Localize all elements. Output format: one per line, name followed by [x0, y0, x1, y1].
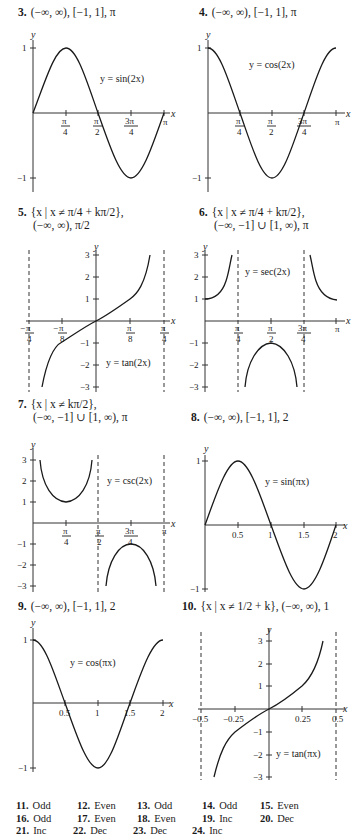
svg-text:1: 1 — [258, 681, 263, 691]
svg-text:1: 1 — [194, 294, 199, 304]
chart-p10: y x 321 −1−2−3 −0.5−0.250.250.5 y = tan(… — [192, 624, 348, 782]
svg-text:π: π — [268, 323, 273, 333]
svg-text:x: x — [345, 108, 351, 119]
svg-text:8: 8 — [128, 334, 133, 344]
svg-text:y: y — [30, 29, 36, 40]
svg-text:x: x — [170, 315, 176, 326]
answer-item: 15.Even — [260, 800, 299, 813]
plots-layer: .ax{stroke:#333;stroke-width:1;fill:none… — [0, 0, 364, 800]
chart-p6: y x 321 −1−2−3 π4 π2 3π4 π y = sec(2x) — [189, 241, 351, 392]
svg-text:π: π — [59, 323, 64, 333]
answer-item: 18.Even — [137, 813, 202, 826]
svg-text:4: 4 — [64, 537, 69, 547]
answers-row: 11.Odd 12.Even 13.Odd 14.Odd 15.Even — [16, 800, 299, 813]
svg-text:4: 4 — [129, 127, 134, 137]
answer-item: 19.Inc — [202, 813, 260, 826]
svg-text:2: 2 — [22, 476, 27, 486]
answers-row: 21.Inc 22.Dec 23.Dec 24.Inc — [16, 825, 299, 838]
svg-text:−3: −3 — [253, 772, 263, 782]
svg-text:y: y — [202, 241, 208, 252]
svg-text:−3: −3 — [80, 382, 90, 392]
svg-text:y = sin(2x): y = sin(2x) — [100, 73, 144, 85]
svg-text:x: x — [168, 698, 174, 709]
svg-text:−0.25: −0.25 — [223, 714, 244, 724]
svg-text:1: 1 — [196, 456, 201, 466]
svg-text:−2: −2 — [80, 360, 90, 370]
answer-item: 14.Odd — [202, 800, 260, 813]
svg-text:4: 4 — [63, 127, 68, 137]
svg-text:1.5: 1.5 — [298, 530, 310, 540]
svg-text:π: π — [335, 117, 340, 127]
svg-text:π: π — [161, 323, 166, 333]
svg-text:y: y — [205, 29, 211, 40]
svg-text:y: y — [30, 439, 36, 450]
svg-text:−2: −2 — [253, 750, 263, 760]
svg-text:y: y — [93, 241, 99, 252]
svg-text:1: 1 — [23, 635, 28, 645]
svg-text:−1: −1 — [17, 539, 27, 549]
answer-item: 23.Dec — [133, 825, 192, 838]
answer-item: 11.Odd — [16, 800, 77, 813]
chart-p5: y x 321 −1−2−3 −π4 −π8 π8 π4 y = tan(2x) — [20, 241, 176, 392]
svg-text:π: π — [235, 323, 240, 333]
svg-text:4: 4 — [237, 127, 242, 137]
svg-text:3: 3 — [194, 250, 199, 260]
svg-text:y = cos(2x): y = cos(2x) — [249, 59, 295, 71]
svg-text:2: 2 — [95, 127, 100, 137]
svg-text:π: π — [26, 323, 31, 333]
svg-text:x: x — [342, 520, 348, 531]
svg-text:4: 4 — [301, 334, 306, 344]
svg-text:π: π — [162, 526, 167, 536]
chart-p8: y x 1−1 0.511.52 y = sin(πx) — [190, 443, 348, 594]
svg-text:3: 3 — [85, 250, 90, 260]
svg-text:π: π — [236, 116, 241, 126]
svg-text:y: y — [203, 443, 209, 454]
svg-text:π: π — [63, 526, 68, 536]
svg-text:−3: −3 — [17, 581, 27, 591]
chart-p4: y x 1−1 π4 π2 3π4 π y = cos(2x) — [192, 29, 351, 192]
svg-text:−1: −1 — [80, 338, 90, 348]
svg-text:y: y — [30, 617, 36, 628]
svg-text:y = cos(πx): y = cos(πx) — [70, 657, 116, 669]
svg-text:y = sec(2x): y = sec(2x) — [245, 266, 290, 278]
svg-text:1: 1 — [22, 497, 27, 507]
svg-text:1: 1 — [95, 708, 100, 718]
svg-text:y = tan(πx): y = tan(πx) — [276, 748, 321, 760]
svg-text:−: − — [20, 323, 25, 333]
svg-text:y = sin(πx): y = sin(πx) — [265, 476, 309, 488]
svg-text:π: π — [127, 323, 132, 333]
chart-p9: y x 1−1 0.511.52 y = cos(πx) — [18, 617, 174, 773]
svg-text:π: π — [62, 116, 67, 126]
svg-text:2: 2 — [85, 272, 90, 282]
svg-text:−2: −2 — [17, 560, 27, 570]
svg-text:3: 3 — [22, 455, 27, 465]
svg-text:2: 2 — [194, 272, 199, 282]
answer-item: 21.Inc — [16, 825, 73, 838]
svg-text:x: x — [170, 518, 176, 529]
svg-text:y: y — [266, 624, 272, 635]
svg-text:2: 2 — [160, 708, 165, 718]
answer-item: 16.Odd — [16, 813, 77, 826]
svg-text:π: π — [268, 116, 273, 126]
svg-text:π: π — [94, 116, 99, 126]
svg-text:1: 1 — [197, 43, 202, 53]
svg-text:3π: 3π — [298, 323, 308, 333]
svg-text:−3: −3 — [189, 382, 199, 392]
svg-text:x: x — [342, 703, 348, 714]
svg-text:−1: −1 — [18, 763, 28, 773]
svg-text:4: 4 — [302, 127, 307, 137]
svg-text:−1: −1 — [189, 338, 199, 348]
svg-text:4: 4 — [236, 334, 241, 344]
svg-text:y = tan(2x): y = tan(2x) — [106, 357, 151, 369]
svg-text:2: 2 — [258, 659, 263, 669]
answer-item: 20.Dec — [260, 813, 294, 826]
svg-text:−: − — [53, 323, 58, 333]
svg-text:−1: −1 — [253, 727, 263, 737]
svg-text:x: x — [170, 108, 176, 119]
svg-text:3π: 3π — [125, 116, 135, 126]
svg-text:−1: −1 — [192, 173, 202, 183]
svg-text:2: 2 — [97, 537, 102, 547]
svg-text:3π: 3π — [125, 526, 135, 536]
answers-list: 11.Odd 12.Even 13.Odd 14.Odd 15.Even 16.… — [16, 800, 299, 838]
svg-text:0.5: 0.5 — [232, 530, 244, 540]
